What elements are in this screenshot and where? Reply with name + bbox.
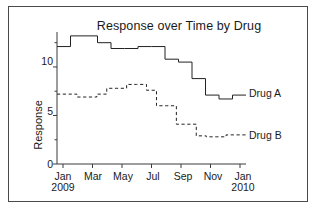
series-line-drug-a [57,36,246,99]
screenshot-root: Response over Time by Drug Response 10 5… [0,0,316,209]
axes [57,32,246,164]
figure-frame: Response over Time by Drug Response 10 5… [8,6,308,202]
y-axis-ticks [53,43,57,164]
x-axis-ticks [63,164,240,168]
series-line-drug-b [57,84,246,136]
plot-area [9,7,309,203]
